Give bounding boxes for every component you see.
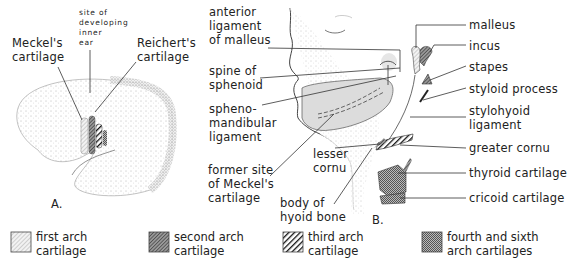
embryo-illustration	[17, 50, 173, 196]
label-meckels-cartilage: Meckel's cartilage	[12, 36, 64, 64]
label-inner-ear: site of developing inner ear	[79, 8, 128, 48]
legend-first-arch: first archcartilage	[36, 230, 87, 258]
label-thyroid-cartilage: thyroid cartilage	[469, 166, 567, 180]
label-sphenomandibular-ligament: spheno- mandibular ligament	[209, 102, 277, 144]
label-stylohyoid-ligament: stylohyoid ligament	[469, 104, 530, 132]
legend-swatch-second-arch	[149, 232, 169, 252]
legend-fourth-sixth-arch: fourth and sixtharch cartilages	[447, 230, 539, 258]
panel-b-label: B.	[372, 213, 384, 227]
legend-third-arch: third archcartilage	[308, 230, 364, 258]
panel-a-label: A.	[51, 197, 63, 211]
label-greater-cornu: greater cornu	[469, 141, 550, 155]
legend-swatch-fourth-sixth-arch	[422, 232, 442, 252]
legend-second-arch: second archcartilage	[174, 230, 244, 258]
legend-swatch-third-arch	[283, 232, 303, 252]
label-lesser-cornu: lesser cornu	[313, 147, 348, 175]
label-styloid-process: styloid process	[469, 82, 558, 96]
label-body-hyoid-bone: body of hyoid bone	[280, 196, 346, 224]
label-malleus: malleus	[469, 18, 515, 32]
label-stapes: stapes	[469, 60, 508, 74]
label-former-site-meckels: former site of Meckel's cartilage	[208, 163, 274, 205]
label-anterior-ligament-malleus: anterior ligament of malleus	[209, 5, 271, 47]
label-incus: incus	[469, 39, 500, 53]
label-cricoid-cartilage: cricoid cartilage	[469, 191, 565, 205]
label-reicherts-cartilage: Reichert's cartilage	[137, 36, 196, 64]
head-illustration	[260, 8, 466, 215]
label-spine-of-sphenoid: spine of sphenoid	[209, 64, 263, 92]
legend-swatch-first-arch	[11, 232, 31, 252]
